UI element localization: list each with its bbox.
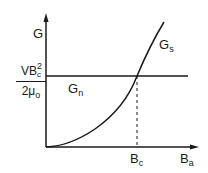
critical-field-label: Bc — [130, 152, 143, 168]
superconducting-curve-label: Gs — [159, 38, 174, 54]
normal-curve-label: Gn — [68, 82, 83, 98]
y-axis-label: G — [33, 27, 43, 40]
y-axis-arrow-icon — [44, 13, 49, 22]
superconducting-curve — [46, 22, 164, 147]
x-axis-arrow-icon — [190, 145, 199, 150]
x-axis-label: Ba — [180, 152, 194, 168]
energy-level-label: VB2c 2μo — [16, 62, 46, 100]
